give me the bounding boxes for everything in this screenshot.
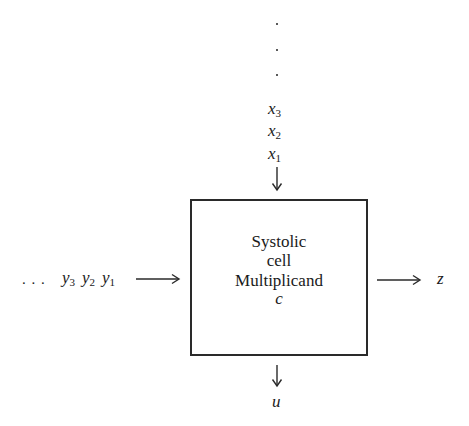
input-x2: x2: [268, 122, 281, 139]
output-z: z: [437, 270, 444, 287]
ellipsis-dot: [276, 74, 278, 76]
arrow-right-icon: [376, 273, 422, 287]
left-ellipsis: . . .: [22, 272, 46, 287]
systolic-cell-box: Systolic cell Multiplicand c: [190, 199, 368, 356]
cell-label-line-3: Multiplicand: [192, 272, 366, 289]
input-y1: y1: [102, 269, 115, 286]
arrow-down-icon: [270, 364, 284, 388]
input-y3: y3: [62, 269, 75, 286]
multiplicand-parameter: c: [192, 290, 366, 307]
input-x3: x3: [268, 100, 281, 117]
input-x1: x1: [268, 145, 281, 162]
cell-label-line-2: cell: [192, 252, 366, 269]
arrow-right-icon: [135, 272, 181, 286]
ellipsis-dot: [276, 23, 278, 25]
input-y2: y2: [82, 269, 95, 286]
arrow-down-icon: [270, 166, 284, 192]
ellipsis-dot: [276, 49, 278, 51]
output-u: u: [272, 393, 281, 410]
cell-label-line-1: Systolic: [192, 233, 366, 250]
